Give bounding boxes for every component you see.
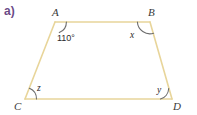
part-label-a: a) [4, 4, 15, 18]
vertex-label-B: B [148, 7, 155, 18]
figure-container: a) A B C D 110° x z y [0, 0, 197, 115]
vertex-label-C: C [14, 101, 21, 112]
angle-label-A: 110° [57, 34, 75, 43]
angle-arc-D [161, 89, 169, 100]
angle-label-C: z [37, 84, 41, 93]
angle-arc-C [29, 88, 36, 99]
angle-arc-A [59, 22, 66, 33]
vertex-label-D: D [173, 101, 181, 112]
trapezoid-diagram [0, 0, 197, 115]
angle-label-B: x [130, 31, 134, 40]
angle-label-D: y [157, 86, 161, 95]
vertex-label-A: A [52, 7, 59, 18]
